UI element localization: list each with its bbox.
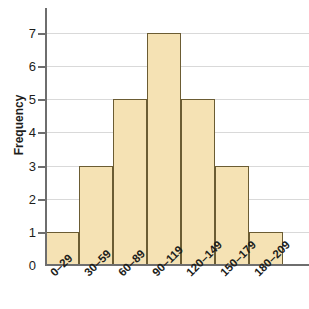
y-tick-mark-2 <box>38 199 47 201</box>
y-tick-mark-6 <box>38 66 47 68</box>
bar-3 <box>147 33 181 265</box>
y-tick-mark-1 <box>38 232 47 234</box>
histogram-chart: 7 6 5 4 3 2 1 0 Frequency 0–29 30–59 60–… <box>0 0 309 309</box>
y-tick-mark-3 <box>38 166 47 168</box>
bar-4 <box>181 99 215 265</box>
y-tick-mark-5 <box>38 99 47 101</box>
y-tick-label-1: 1 <box>8 225 36 240</box>
bar-2 <box>113 99 147 265</box>
y-tick-label-0: 0 <box>8 258 36 273</box>
y-tick-label-7: 7 <box>8 26 36 41</box>
y-tick-label-6: 6 <box>8 59 36 74</box>
y-axis-title: Frequency <box>12 80 26 170</box>
y-axis-line <box>45 8 47 266</box>
y-tick-label-2: 2 <box>8 192 36 207</box>
y-tick-mark-4 <box>38 132 47 134</box>
y-tick-mark-7 <box>38 33 47 35</box>
